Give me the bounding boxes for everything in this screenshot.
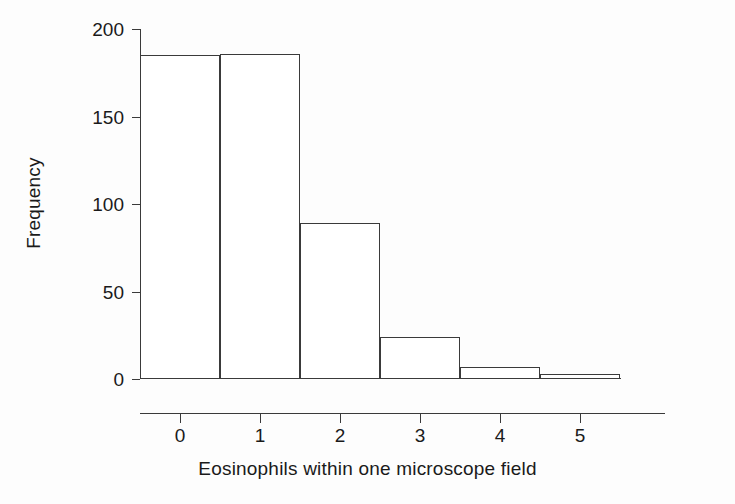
histogram-bar <box>380 337 460 379</box>
histogram-figure: Frequency 050100150200 012345 Eosinophil… <box>0 0 735 504</box>
x-axis-tick <box>180 414 181 423</box>
x-axis-tick-label: 4 <box>480 425 520 447</box>
x-axis-tick-label: 0 <box>160 425 200 447</box>
x-axis-tick <box>580 414 581 423</box>
x-axis-title: Eosinophils within one microscope field <box>0 458 735 480</box>
x-axis-tick-label: 2 <box>320 425 360 447</box>
y-axis-tick <box>132 204 140 205</box>
y-axis-tick-label: 200 <box>64 20 124 39</box>
x-axis-tick <box>260 414 261 423</box>
histogram-bar <box>140 55 220 379</box>
x-axis-tick-label: 5 <box>560 425 600 447</box>
x-axis-tick-label: 3 <box>400 425 440 447</box>
x-axis-tick <box>500 414 501 423</box>
plot-baseline <box>140 378 621 379</box>
y-axis-tick <box>132 29 140 30</box>
x-axis-tick-label: 1 <box>240 425 280 447</box>
histogram-bar <box>220 54 300 380</box>
histogram-bar <box>300 223 380 379</box>
y-axis-tick <box>132 117 140 118</box>
y-axis-tick-label: 150 <box>64 107 124 126</box>
y-axis-tick <box>132 379 140 380</box>
y-axis-tick-label: 0 <box>64 370 124 389</box>
y-axis-tick-label: 50 <box>64 282 124 301</box>
x-axis-line <box>140 413 665 414</box>
y-axis-tick <box>132 292 140 293</box>
y-axis-tick-label: 100 <box>64 195 124 214</box>
plot-area <box>140 29 620 379</box>
x-axis-tick <box>420 414 421 423</box>
x-axis-tick <box>340 414 341 423</box>
y-axis-title: Frequency <box>14 28 54 378</box>
